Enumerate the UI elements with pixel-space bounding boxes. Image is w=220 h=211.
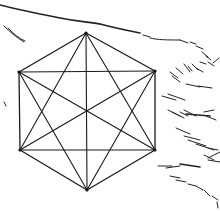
hatch-stroke <box>196 46 203 49</box>
hexagon-diagram <box>0 0 220 211</box>
hexagon-diagonals <box>19 33 155 190</box>
hatch-stroke <box>208 152 220 158</box>
background-hatching-strokes <box>0 5 220 208</box>
hexagon-edge <box>19 33 86 72</box>
hatch-stroke <box>100 24 140 33</box>
hatch-stroke <box>176 128 190 134</box>
hatch-stroke <box>204 110 214 112</box>
hatch-stroke <box>150 38 180 40</box>
hatch-stroke <box>217 202 218 208</box>
hatch-stroke <box>188 140 206 146</box>
vertex-bottom <box>85 188 88 191</box>
hexagon-with-diagonals-drawing <box>0 0 220 211</box>
hatch-stroke <box>143 35 150 37</box>
hatch-stroke <box>180 40 188 43</box>
vertex-top <box>84 31 87 34</box>
hatch-stroke <box>176 68 183 74</box>
hatch-stroke <box>200 62 206 64</box>
hatch-stroke <box>206 56 211 60</box>
hatch-stroke <box>206 116 216 120</box>
hatch-stroke <box>176 180 186 182</box>
hatch-stroke <box>170 176 180 178</box>
hatch-stroke <box>212 196 218 200</box>
hatch-stroke <box>4 102 6 106</box>
vertex-lower-left <box>18 148 21 151</box>
hexagon-edge <box>20 150 87 190</box>
hatch-stroke <box>190 42 196 44</box>
hatch-stroke <box>180 164 200 167</box>
hexagon-edge <box>87 150 155 190</box>
hatch-stroke <box>186 84 200 87</box>
hatch-stroke <box>168 94 185 100</box>
hatch-stroke <box>196 68 203 72</box>
hexagon-diagonal <box>19 72 87 190</box>
hatch-stroke <box>196 186 203 190</box>
hatch-stroke <box>0 5 100 24</box>
vertex-upper-right <box>153 69 156 72</box>
vertex-upper-left <box>17 70 20 73</box>
hatch-stroke <box>204 190 210 196</box>
hexagon-diagonal <box>19 71 155 72</box>
hatch-stroke <box>184 136 200 140</box>
hatch-stroke <box>8 28 25 41</box>
hatch-stroke <box>188 184 196 186</box>
vertex-lower-right <box>153 148 156 151</box>
hexagon-edge <box>86 33 155 71</box>
hexagon-edge <box>19 72 20 150</box>
hatch-stroke <box>213 58 219 63</box>
